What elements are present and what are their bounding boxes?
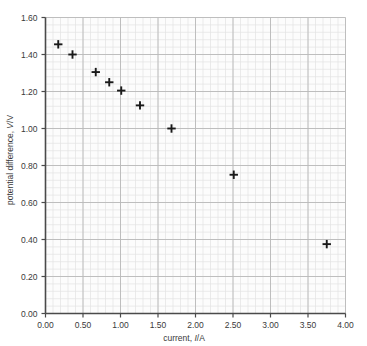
y-axis-title: potential difference, V/V <box>5 115 15 205</box>
x-tick-label: 3.00 <box>262 320 279 330</box>
x-tick-label: 1.50 <box>150 320 167 330</box>
y-tick-label: 1.60 <box>21 13 38 23</box>
x-tick-label: 2.50 <box>225 320 242 330</box>
x-tick-label: 4.00 <box>337 320 354 330</box>
y-tick-label: 1.00 <box>21 124 38 134</box>
x-axis-tick-labels: 0.000.501.001.502.002.503.003.504.00 <box>37 320 354 330</box>
y-tick-label: 0.00 <box>21 309 38 319</box>
y-tick-label: 1.40 <box>21 50 38 60</box>
y-tick-label: 0.20 <box>21 272 38 282</box>
x-tick-label: 3.50 <box>300 320 317 330</box>
x-tick-label: 0.00 <box>37 320 54 330</box>
y-tick-label: 0.40 <box>21 235 38 245</box>
y-tick-label: 1.20 <box>21 87 38 97</box>
scatter-chart: 0.000.501.001.502.002.503.003.504.00 0.0… <box>0 0 367 346</box>
x-tick-label: 0.50 <box>75 320 92 330</box>
y-tick-label: 0.80 <box>21 161 38 171</box>
y-tick-label: 0.60 <box>21 198 38 208</box>
y-axis-tick-labels: 0.000.200.400.600.801.001.201.401.60 <box>21 13 38 319</box>
x-tick-label: 2.00 <box>187 320 204 330</box>
x-axis-title: current, I/A <box>163 333 205 343</box>
x-tick-label: 1.00 <box>112 320 129 330</box>
